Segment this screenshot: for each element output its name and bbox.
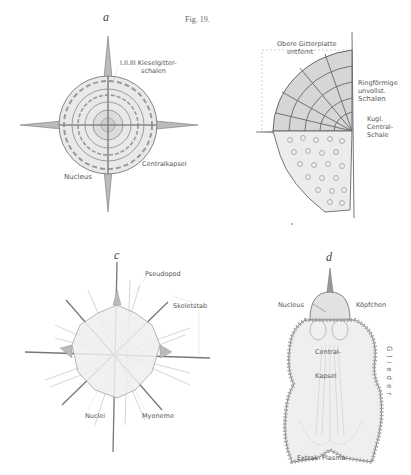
label-nucleus-a: Nucleus (64, 173, 92, 181)
label-ring-line3: Schalen (358, 95, 386, 103)
label-nucleus-d: Nucleus (278, 301, 304, 309)
panel-c-letter: c (114, 248, 119, 263)
label-skeletal-rod: Skeletstab (173, 302, 207, 310)
label-myoneme: Myoneme (142, 412, 174, 420)
label-upper-plate-line2: entfernt (287, 48, 313, 56)
label-extrak-plasma: Extrak. Plasma (297, 454, 345, 462)
label-central-line2: Kapsel (315, 372, 336, 380)
label-shells-line1: I.II.III Kieselgitter- (120, 59, 177, 67)
label-central-line1: Central- (315, 348, 341, 356)
label-kugl-line1: Kugl. (367, 115, 383, 123)
panel-d-illustration (285, 268, 382, 462)
panel-a-letter: a (103, 10, 109, 25)
label-ring-line2: unvollst. (358, 87, 386, 95)
label-nuclei: Nuclei (85, 412, 105, 420)
label-upper-plate-line1: Obere Gitterplatte (277, 40, 336, 48)
label-kugl-line3: Schale (367, 131, 389, 139)
label-pseudopod: Pseudopod (145, 270, 181, 278)
label-centralkapsel: Centralkapsel (142, 160, 187, 168)
panel-c-illustration (25, 262, 210, 452)
figure-drawings (0, 0, 411, 475)
label-koepfchen: Köpfchen (356, 301, 386, 309)
label-kugl-line2: Central- (367, 123, 393, 131)
panel-d-letter: d (326, 250, 332, 265)
label-ring-line1: Ringförmige (358, 79, 398, 87)
panel-b-illustration (256, 32, 354, 225)
label-glieder: Glieder (385, 346, 393, 399)
label-shells-line2: schalen (141, 67, 166, 75)
